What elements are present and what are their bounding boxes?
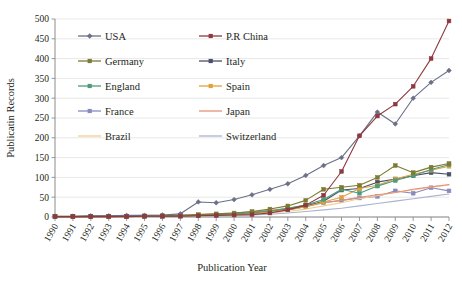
x-tick-label: 1990 bbox=[42, 222, 60, 244]
x-tick-label: 1992 bbox=[78, 222, 96, 244]
series-line-spain bbox=[55, 166, 449, 216]
x-axis-title: Publication Year bbox=[197, 262, 267, 273]
legend-item-italy[interactable]: Italy bbox=[199, 56, 246, 67]
data-point bbox=[286, 204, 290, 208]
y-axis: 050100150200250300350400450500 bbox=[35, 14, 55, 222]
data-point bbox=[447, 162, 451, 166]
legend-item-p-r-china[interactable]: P.R China bbox=[199, 31, 268, 42]
legend-marker bbox=[88, 109, 92, 113]
data-point bbox=[358, 183, 362, 187]
x-tick-label: 2003 bbox=[275, 222, 293, 244]
data-point bbox=[340, 195, 344, 199]
legend-marker bbox=[209, 59, 213, 63]
x-tick-label: 2007 bbox=[347, 222, 365, 244]
legend-item-japan[interactable]: Japan bbox=[199, 106, 251, 117]
y-axis-title: Publicatin Records bbox=[5, 78, 16, 158]
y-tick-label: 50 bbox=[40, 193, 50, 203]
legend-item-germany[interactable]: Germany bbox=[78, 56, 145, 67]
legend-item-usa[interactable]: USA bbox=[78, 31, 126, 42]
data-point bbox=[214, 214, 218, 218]
x-tick-label: 1994 bbox=[114, 222, 132, 244]
data-point bbox=[321, 163, 326, 168]
legend-label: Brazil bbox=[105, 131, 131, 142]
legend-label: Switzerland bbox=[226, 131, 277, 142]
data-point bbox=[304, 203, 308, 207]
data-point bbox=[358, 134, 362, 138]
x-tick-label: 2012 bbox=[436, 222, 454, 244]
legend-marker bbox=[209, 84, 213, 88]
legend-item-switzerland[interactable]: Switzerland bbox=[199, 131, 277, 142]
legend-label: Spain bbox=[226, 81, 251, 92]
series-line-germany bbox=[55, 164, 449, 217]
y-tick-label: 250 bbox=[35, 113, 50, 123]
data-point bbox=[375, 176, 379, 180]
legend-item-england[interactable]: England bbox=[78, 81, 141, 92]
data-point bbox=[71, 215, 75, 219]
data-point bbox=[232, 213, 236, 217]
x-tick-label: 1996 bbox=[150, 222, 168, 244]
data-point bbox=[89, 215, 93, 219]
data-point bbox=[340, 185, 344, 189]
legend-label: England bbox=[105, 81, 141, 92]
data-point bbox=[447, 189, 451, 193]
data-point bbox=[143, 214, 147, 218]
data-point bbox=[358, 191, 362, 195]
x-tick-label: 2004 bbox=[293, 222, 311, 244]
data-point bbox=[375, 114, 379, 118]
data-point bbox=[286, 208, 290, 212]
data-point bbox=[393, 102, 397, 106]
legend-marker bbox=[209, 34, 213, 38]
data-point bbox=[322, 187, 326, 191]
x-tick-label: 2006 bbox=[329, 222, 347, 244]
y-tick-label: 400 bbox=[35, 54, 50, 64]
x-tick-label: 1997 bbox=[167, 222, 185, 244]
x-tick-label: 2000 bbox=[221, 222, 239, 244]
legend-marker bbox=[87, 33, 93, 39]
legend-item-brazil[interactable]: Brazil bbox=[78, 131, 131, 142]
x-tick-label: 2001 bbox=[239, 222, 257, 244]
data-point bbox=[393, 164, 397, 168]
data-point bbox=[429, 57, 433, 61]
x-tick-label: 2005 bbox=[311, 222, 329, 244]
series-lines bbox=[53, 19, 452, 219]
data-point bbox=[268, 211, 272, 215]
data-point bbox=[53, 215, 57, 219]
data-point bbox=[411, 191, 415, 195]
legend-item-france[interactable]: France bbox=[78, 106, 134, 117]
x-tick-label: 1991 bbox=[60, 222, 78, 244]
x-tick-label: 1993 bbox=[96, 222, 114, 244]
data-point bbox=[285, 181, 290, 186]
legend-label: Japan bbox=[226, 106, 251, 117]
legend-label: P.R China bbox=[226, 31, 268, 42]
x-tick-label: 1999 bbox=[203, 222, 221, 244]
legend-marker bbox=[88, 84, 92, 88]
x-tick-label: 2011 bbox=[418, 222, 436, 243]
series-line-england bbox=[55, 165, 449, 217]
y-tick-label: 150 bbox=[35, 153, 50, 163]
chart-legend: USAGermanyEnglandFranceBrazilP.R ChinaIt… bbox=[78, 31, 277, 142]
legend-marker bbox=[88, 59, 92, 63]
y-tick-label: 500 bbox=[35, 14, 50, 24]
y-tick-label: 300 bbox=[35, 94, 50, 104]
data-point bbox=[411, 84, 415, 88]
data-point bbox=[411, 171, 415, 175]
data-point bbox=[161, 214, 165, 218]
y-tick-label: 200 bbox=[35, 133, 50, 143]
x-tick-label: 2009 bbox=[382, 222, 400, 244]
y-tick-label: 100 bbox=[35, 173, 50, 183]
legend-label: France bbox=[105, 106, 134, 117]
data-point bbox=[393, 179, 397, 183]
data-point bbox=[340, 170, 344, 174]
legend-item-spain[interactable]: Spain bbox=[199, 81, 251, 92]
data-point bbox=[250, 213, 254, 217]
x-tick-label: 1995 bbox=[132, 222, 150, 244]
legend-label: Germany bbox=[105, 56, 145, 67]
data-point bbox=[214, 200, 219, 205]
data-point bbox=[125, 215, 129, 219]
data-point bbox=[107, 215, 111, 219]
x-tick-label: 2010 bbox=[400, 222, 418, 244]
data-point bbox=[250, 192, 255, 197]
series-line-p-r-china bbox=[55, 21, 449, 217]
legend-label: Italy bbox=[226, 56, 246, 67]
data-point bbox=[178, 214, 182, 218]
